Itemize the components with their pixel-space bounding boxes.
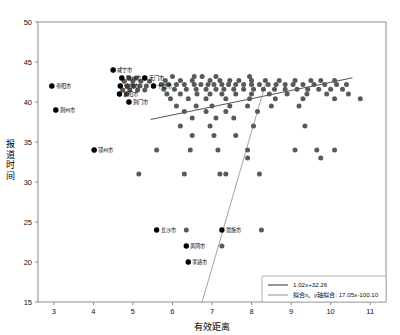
labeled-data-point [53, 107, 58, 112]
data-point-label: 荆门市 [133, 98, 148, 106]
labeled-data-point [119, 75, 124, 80]
data-point [168, 96, 173, 101]
data-point [266, 82, 271, 87]
x-axis-tick-label: 7 [210, 307, 214, 316]
x-axis-tick-label: 5 [131, 307, 135, 316]
data-point [291, 82, 296, 87]
data-point [211, 133, 216, 138]
data-point [249, 82, 254, 87]
data-point [269, 104, 274, 109]
data-point [274, 82, 279, 87]
data-point [208, 124, 213, 129]
data-point [318, 78, 323, 83]
data-point [190, 133, 195, 138]
y-axis-tick-label: 15 [24, 298, 32, 307]
data-point [192, 82, 197, 87]
legend-entry-label: 1.02x+32.26 [293, 281, 328, 288]
data-point [245, 104, 250, 109]
data-point [170, 74, 175, 79]
labeled-data-point [154, 227, 159, 232]
chart-canvas: 152025303540455034567891011有效距离报道时间枣阳市荆州… [0, 0, 400, 335]
data-point [204, 96, 209, 101]
data-point-label: 随州市 [126, 74, 141, 82]
y-axis-title-char: 道 [6, 149, 15, 160]
x-axis-tick-label: 8 [249, 307, 253, 316]
labeled-data-point [151, 83, 156, 88]
data-point [324, 92, 329, 97]
data-point [295, 87, 300, 92]
data-point-label: 荆州市 [60, 106, 75, 114]
data-point [293, 148, 298, 153]
data-point [267, 92, 272, 97]
data-point [318, 156, 323, 161]
data-point [136, 172, 141, 177]
x-axis-tick-label: 10 [326, 307, 334, 316]
data-point [182, 109, 187, 114]
data-point [206, 82, 211, 87]
data-point [188, 148, 193, 153]
data-point [223, 96, 228, 101]
x-axis-tick-label: 3 [52, 307, 56, 316]
labeled-data-point [186, 259, 191, 264]
data-point [300, 96, 305, 101]
y-axis-tick-label: 40 [24, 98, 32, 107]
data-point [251, 87, 256, 92]
plot-area-frame [38, 22, 386, 302]
y-axis-tick-label: 50 [24, 18, 32, 27]
data-point [211, 82, 216, 87]
data-point-label: 襄阳市 [123, 90, 138, 98]
data-point-label: 枣阳市 [56, 82, 71, 90]
data-point [186, 96, 191, 101]
data-point [200, 74, 205, 79]
data-point [328, 87, 333, 92]
data-point [164, 92, 169, 97]
data-point [178, 92, 183, 97]
data-point [272, 87, 277, 92]
data-point [334, 82, 339, 87]
data-point [316, 87, 321, 92]
data-point-label: 仙桃市 [124, 82, 139, 90]
data-point-label: 黄冈市 [190, 242, 205, 250]
data-point [208, 92, 213, 97]
data-point [178, 78, 183, 83]
x-axis-tick-label: 9 [289, 307, 293, 316]
y-axis-tick-label: 35 [24, 138, 32, 147]
data-point [154, 148, 159, 153]
x-axis-title: 有效距离 [194, 321, 230, 332]
data-point [285, 92, 290, 97]
data-point [226, 82, 231, 87]
data-point-label: 咸宁市 [117, 66, 132, 74]
labeled-data-point [49, 83, 54, 88]
data-point [241, 82, 246, 87]
data-point-label: 十堰市 [157, 82, 172, 90]
labeled-data-point [117, 91, 122, 96]
data-point [213, 87, 218, 92]
data-point [305, 87, 310, 92]
data-point [210, 104, 215, 109]
data-point [302, 124, 307, 129]
data-point [204, 87, 209, 92]
data-point [231, 116, 236, 121]
data-point [344, 82, 349, 87]
x-axis-tick-label: 6 [170, 307, 174, 316]
data-point [297, 104, 302, 109]
data-point [255, 109, 260, 114]
data-point [259, 228, 264, 233]
labeled-data-point [110, 67, 115, 72]
data-point [217, 172, 222, 177]
data-point [184, 87, 189, 92]
y-axis-tick-label: 30 [24, 178, 32, 187]
data-point [219, 92, 224, 97]
data-point [257, 172, 262, 177]
data-point [219, 82, 224, 87]
data-point [251, 124, 256, 129]
data-point [223, 172, 228, 177]
data-point [283, 87, 288, 92]
labeled-data-point [126, 99, 131, 104]
y-axis-tick-label: 25 [24, 218, 32, 227]
data-point [308, 78, 313, 83]
data-point [231, 87, 236, 92]
data-point [245, 156, 250, 161]
data-point [198, 82, 203, 87]
data-point [194, 104, 199, 109]
